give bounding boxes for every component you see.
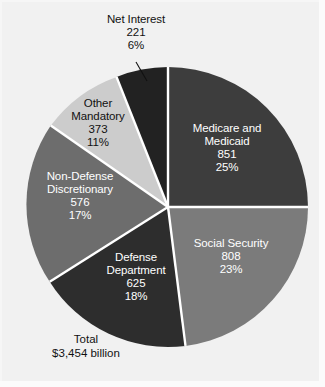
slice-name-other-mandatory-line2: Mandatory (50, 110, 146, 123)
pie-slice-social-security[interactable] (168, 207, 308, 346)
slice-value-other-mandatory: 373 (50, 123, 146, 136)
total-value: $3,454 billion (16, 346, 156, 360)
slice-percent-other-mandatory: 11% (50, 136, 146, 149)
slice-percent-social-security: 23% (176, 263, 286, 276)
slice-label-non-defense-discretionary: Non-Defense Discretionary 576 17% (24, 170, 136, 222)
slice-percent-non-defense-discretionary: 17% (24, 209, 136, 222)
slice-value-defense-department: 625 (84, 277, 188, 290)
slice-name-social-security: Social Security (176, 237, 286, 250)
slice-label-other-mandatory: Other Mandatory 373 11% (50, 97, 146, 149)
slice-label-medicare-and-medicaid: Medicare and Medicaid 851 25% (172, 122, 282, 174)
slice-name-medicare-and-medicaid-line2: Medicaid (172, 135, 282, 148)
slice-label-net-interest: Net Interest 221 6% (76, 13, 196, 52)
slice-name-defense-department-line2: Department (84, 264, 188, 277)
slice-name-other-mandatory-line1: Other (50, 97, 146, 110)
slice-name-medicare-and-medicaid-line1: Medicare and (172, 122, 282, 135)
slice-name-defense-department-line1: Defense (84, 251, 188, 264)
slice-percent-medicare-and-medicaid: 25% (172, 161, 282, 174)
slice-name-non-defense-discretionary-line2: Discretionary (24, 183, 136, 196)
slice-label-defense-department: Defense Department 625 18% (84, 251, 188, 303)
slice-name-non-defense-discretionary-line1: Non-Defense (24, 170, 136, 183)
total-label: Total (16, 332, 156, 346)
slice-value-social-security: 808 (176, 250, 286, 263)
slice-percent-net-interest: 6% (76, 39, 196, 52)
total-annotation: Total $3,454 billion (16, 332, 156, 361)
slice-name-net-interest: Net Interest (76, 13, 196, 26)
slice-percent-defense-department: 18% (84, 290, 188, 303)
slice-value-non-defense-discretionary: 576 (24, 196, 136, 209)
slice-label-social-security: Social Security 808 23% (176, 237, 286, 276)
pie-chart-figure: Net Interest 221 6% Other Mandatory 373 … (0, 0, 325, 387)
slice-value-medicare-and-medicaid: 851 (172, 148, 282, 161)
slice-value-net-interest: 221 (76, 26, 196, 39)
